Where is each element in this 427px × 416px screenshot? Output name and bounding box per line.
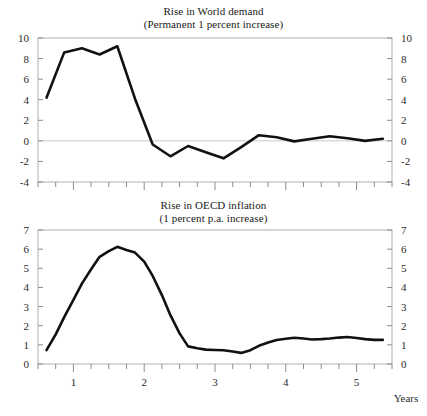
y-tick-label-right: 7 — [401, 224, 407, 236]
plot-area-oecd-inflation: 001122334455667712345Years — [0, 196, 427, 416]
y-tick-label-left: 6 — [24, 243, 30, 255]
y-tick-label-left: 4 — [24, 281, 30, 293]
y-tick-label-left: 0 — [24, 135, 30, 147]
y-tick-label-right: 4 — [401, 281, 407, 293]
y-tick-label-right: 1 — [401, 339, 407, 351]
x-tick-label: 5 — [354, 376, 360, 388]
y-tick-label-right: -4 — [401, 176, 411, 188]
y-tick-label-right: 0 — [401, 135, 407, 147]
y-tick-label-right: 2 — [401, 320, 407, 332]
y-tick-label-right: 8 — [401, 53, 407, 65]
y-tick-label-left: 8 — [24, 53, 30, 65]
y-tick-label-right: 6 — [401, 243, 407, 255]
chart-panel-world-demand: Rise in World demand (Permanent 1 percen… — [0, 0, 427, 200]
y-tick-label-right: 2 — [401, 114, 407, 126]
data-series-line — [47, 247, 383, 353]
y-tick-label-right: 0 — [401, 358, 407, 370]
figure-container: Rise in World demand (Permanent 1 percen… — [0, 0, 427, 416]
x-tick-label: 3 — [212, 376, 218, 388]
x-tick-label: 1 — [71, 376, 77, 388]
y-tick-label-left: 4 — [24, 94, 30, 106]
y-tick-label-left: 10 — [18, 32, 30, 44]
y-tick-label-left: 5 — [24, 262, 30, 274]
y-tick-label-right: 5 — [401, 262, 407, 274]
y-tick-label-left: 0 — [24, 358, 30, 370]
x-tick-label: 4 — [283, 376, 289, 388]
y-tick-label-left: -4 — [20, 176, 30, 188]
y-tick-label-right: 6 — [401, 73, 407, 85]
y-tick-label-left: 6 — [24, 73, 30, 85]
plot-frame — [38, 38, 392, 182]
y-tick-label-right: -2 — [401, 155, 410, 167]
y-tick-label-left: 1 — [24, 339, 30, 351]
y-tick-label-left: 3 — [24, 301, 30, 313]
plot-frame — [38, 230, 392, 364]
data-series-line — [47, 46, 383, 158]
x-tick-label: 2 — [141, 376, 147, 388]
y-tick-label-right: 4 — [401, 94, 407, 106]
chart-panel-oecd-inflation: Rise in OECD inflation (1 percent p.a. i… — [0, 196, 427, 416]
y-tick-label-left: 7 — [24, 224, 30, 236]
plot-area-world-demand: -4-4-2-200224466881010 — [0, 0, 427, 200]
x-axis-label: Years — [394, 392, 419, 404]
y-tick-label-left: -2 — [20, 155, 29, 167]
y-tick-label-left: 2 — [24, 114, 30, 126]
y-tick-label-right: 10 — [401, 32, 413, 44]
y-tick-label-left: 2 — [24, 320, 30, 332]
y-tick-label-right: 3 — [401, 301, 407, 313]
